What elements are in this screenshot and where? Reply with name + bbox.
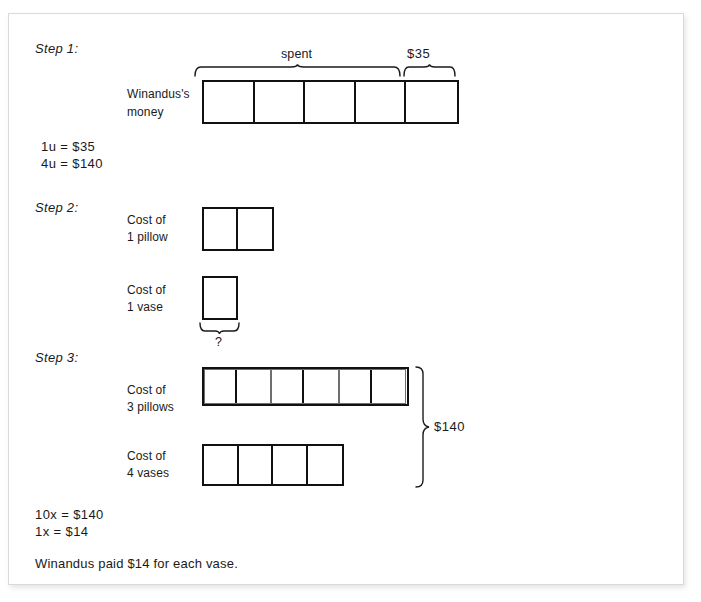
winandus-money-label-line1: Winandus's (127, 86, 190, 102)
pillow-group (339, 369, 406, 404)
step-2-vase-bar (202, 276, 238, 320)
brace-total-shape (414, 366, 430, 488)
step-1-label: Step 1: (35, 41, 78, 57)
bar-cell (372, 370, 404, 403)
brace-amount (403, 64, 457, 77)
step-1-bar (202, 80, 459, 124)
brace-spent (194, 64, 401, 77)
bar-cell (340, 370, 372, 403)
equation-1x: 1x = $14 (35, 523, 88, 540)
step-3-vases-bar (202, 444, 344, 486)
cost-of-1-vase-label-line1: Cost of (127, 282, 166, 298)
brace-spent-label: spent (281, 46, 312, 62)
total-amount-label: $140 (434, 419, 465, 435)
bar-cell (356, 82, 407, 122)
pillow-group (271, 369, 338, 404)
bar-cell (204, 278, 236, 318)
bar-cell (239, 446, 274, 484)
step-2-pillow-bar (202, 207, 274, 251)
cost-of-3-pillows-label-line2: 3 pillows (127, 399, 174, 415)
question-mark-label: ? (215, 334, 222, 350)
winandus-money-label-line2: money (127, 104, 164, 120)
step-3-label: Step 3: (35, 350, 78, 366)
bar-cell (272, 370, 304, 403)
brace-amount-label: $35 (407, 46, 430, 62)
pillow-group (204, 369, 271, 404)
bar-cell (308, 446, 342, 484)
bar-cell (205, 370, 237, 403)
bar-cell (305, 82, 356, 122)
bar-cell (304, 370, 336, 403)
cost-of-1-vase-label-line2: 1 vase (127, 299, 163, 315)
cost-of-1-pillow-label-line1: Cost of (127, 212, 166, 228)
equation-1u: 1u = $35 (41, 138, 95, 155)
cost-of-4-vases-label-line2: 4 vases (127, 465, 169, 481)
brace-total (414, 366, 430, 488)
cost-of-4-vases-label-line1: Cost of (127, 448, 166, 464)
bar-cell (204, 209, 238, 249)
bar-cell (406, 82, 457, 122)
bar-cell (238, 209, 272, 249)
bar-cell (237, 370, 269, 403)
bar-cell (204, 446, 239, 484)
bar-cell (204, 82, 255, 122)
brace-spent-shape (194, 64, 401, 77)
bar-cell (255, 82, 306, 122)
step-2-label: Step 2: (35, 200, 78, 216)
equation-10x: 10x = $140 (35, 506, 104, 523)
equation-4u: 4u = $140 (41, 155, 103, 172)
step-3-pillows-bar (202, 367, 409, 406)
cost-of-3-pillows-label-line1: Cost of (127, 382, 166, 398)
conclusion-statement: Winandus paid $14 for each vase. (35, 556, 238, 572)
cost-of-1-pillow-label-line2: 1 pillow (127, 229, 168, 245)
worksheet-page: Step 1: spent $35 Winandus's money 1u = … (8, 13, 684, 585)
bar-cell (273, 446, 308, 484)
brace-amount-shape (403, 64, 457, 77)
